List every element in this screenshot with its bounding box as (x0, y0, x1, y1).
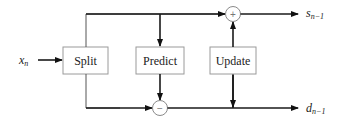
plus-icon: + (230, 9, 236, 20)
split-label: Split (74, 54, 97, 68)
output-s-label: sn−1 (306, 6, 324, 21)
split-block: Split (63, 47, 108, 74)
bottom-branch-line (86, 74, 120, 108)
top-branch-line (86, 14, 225, 47)
predict-block: Predict (136, 47, 184, 74)
update-label: Update (216, 54, 251, 68)
sum-node: + (226, 7, 241, 22)
predict-label: Predict (143, 54, 178, 68)
lifting-scheme-diagram: xn Split Predict − Update + sn−1 dn−1 (0, 0, 340, 124)
difference-node: − (153, 101, 168, 116)
output-d-label: dn−1 (306, 101, 325, 116)
minus-icon: − (157, 103, 163, 114)
update-block: Update (210, 47, 256, 74)
input-label: xn (18, 53, 28, 68)
